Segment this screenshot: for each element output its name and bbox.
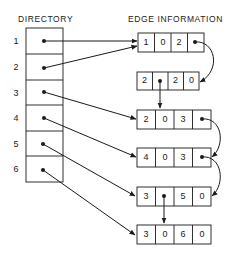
record-4-cell-1: 4 [137,152,155,162]
directory-table [26,28,63,182]
record-2-cell-1: 2 [137,75,152,85]
record-1-cell-3: 2 [171,37,187,47]
record-4-cell-2: 0 [156,152,174,162]
record-5-cell-1: 3 [137,191,155,201]
record-6-cell-3: 6 [174,229,192,239]
record-5-cell-4: 0 [193,191,211,201]
record-5-cell-3: 5 [174,191,192,201]
record-1-cell-2: 0 [155,37,171,47]
record-6-cell-2: 0 [156,229,174,239]
diagram-canvas [0,0,232,259]
directory-pointer-dots [41,39,46,172]
record-3-cell-3: 3 [174,114,192,124]
record-6-cell-1: 3 [137,229,155,239]
directory-arrows [43,41,137,235]
record-6-cell-4: 0 [193,229,211,239]
record-4-cell-3: 3 [174,152,192,162]
record-1-cell-1: 1 [138,37,154,47]
record-2-cell-4: 0 [184,75,199,85]
record-3-cell-1: 2 [137,114,155,124]
record-3-cell-2: 0 [156,114,174,124]
record-2-cell-3: 2 [168,75,183,85]
